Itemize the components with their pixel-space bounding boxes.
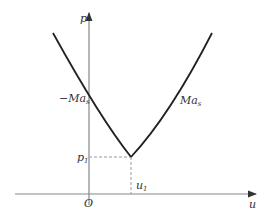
right-branch-label: Mas	[179, 94, 202, 108]
x-axis-label: u	[249, 198, 256, 211]
y-axis-label: p	[80, 12, 87, 25]
u1-label: u1	[136, 179, 148, 193]
origin-label: O	[84, 197, 93, 210]
left-branch-label: −Mas	[59, 92, 90, 106]
p1-label: p1	[77, 151, 89, 165]
diagram-canvas: p u O −Mas Mas p1 u1	[0, 0, 269, 221]
curve-right-branch	[131, 33, 212, 157]
